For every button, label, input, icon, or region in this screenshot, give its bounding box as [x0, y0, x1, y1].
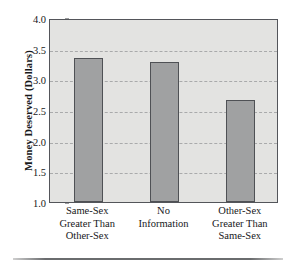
x-tick-label-line: Greater Than	[49, 218, 125, 231]
x-tick-label-line: Same-Sex	[202, 230, 278, 243]
gridline	[50, 51, 277, 52]
bar	[150, 62, 179, 202]
x-tick-label-line: Other-Sex	[49, 230, 125, 243]
y-tick-label: 1.5	[20, 167, 46, 178]
bar	[226, 100, 255, 202]
y-axis-tick-labels: 4.03.53.02.52.01.51.0	[20, 19, 46, 203]
x-tick-label: NoInformation	[125, 205, 201, 230]
bar-chart-figure: Money Deserved (Dollars) 4.03.53.02.52.0…	[0, 0, 296, 270]
y-tick-label: 3.5	[20, 44, 46, 55]
plot-area	[49, 19, 278, 203]
x-tick-label-line: Greater Than	[202, 218, 278, 231]
y-tick-label: 4.0	[20, 14, 46, 25]
bar	[74, 58, 103, 202]
y-tick-label: 2.5	[20, 106, 46, 117]
x-axis-tick-labels: Same-SexGreater ThanOther-SexNoInformati…	[49, 205, 278, 255]
x-tick-label-line: Same-Sex	[49, 205, 125, 218]
x-tick-label: Same-SexGreater ThanOther-Sex	[49, 205, 125, 243]
y-tick-label: 3.0	[20, 75, 46, 86]
y-tick-label: 1.0	[20, 198, 46, 209]
x-tick-label-line: Information	[125, 218, 201, 231]
x-tick-label-line: Other-Sex	[202, 205, 278, 218]
y-tick-label: 2.0	[20, 136, 46, 147]
x-tick-label: Other-SexGreater ThanSame-Sex	[202, 205, 278, 243]
x-tick-label-line: No	[125, 205, 201, 218]
bottom-divider-rule	[13, 258, 283, 260]
